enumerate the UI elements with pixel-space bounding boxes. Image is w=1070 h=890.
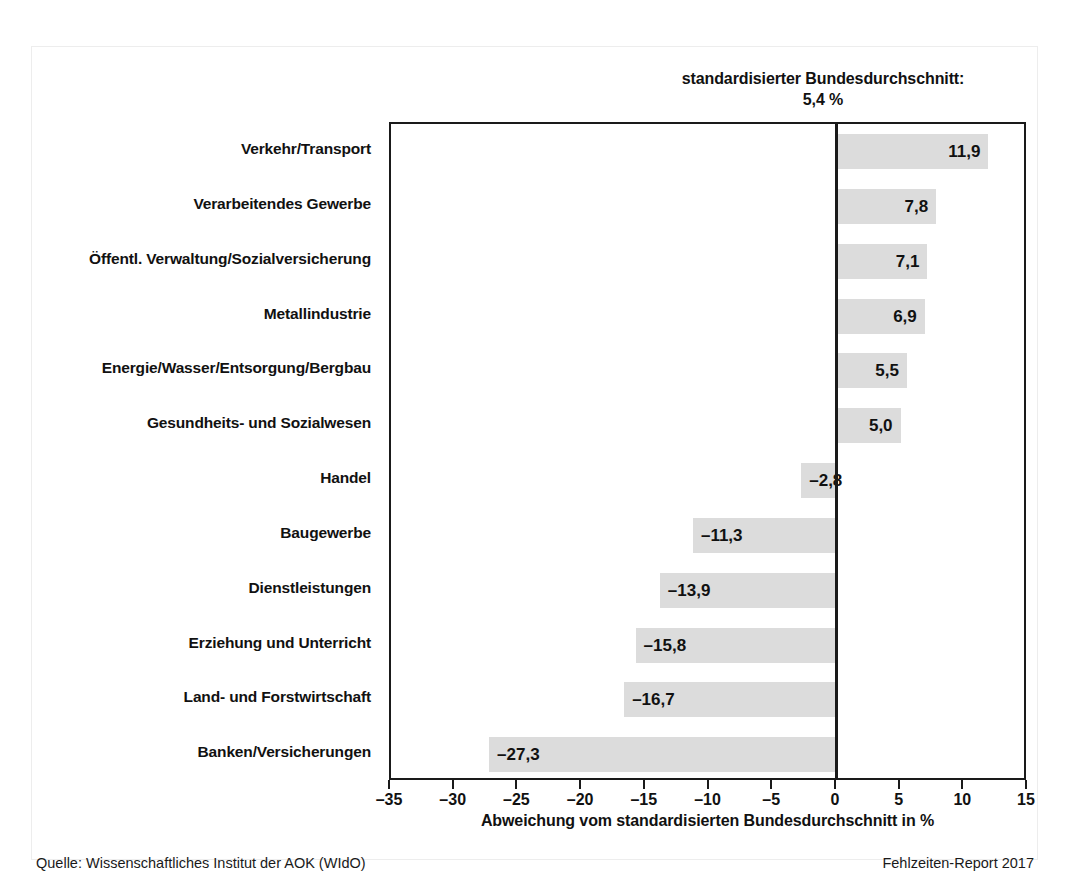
bar-value-label: –16,7 [624, 682, 837, 717]
x-axis-tick [1025, 780, 1027, 789]
category-label: Handel [0, 451, 380, 506]
category-label: Energie/Wasser/Entsorgung/Bergbau [0, 341, 380, 396]
chart-plot-area: 11,97,87,16,95,55,0–2,8–11,3–13,9–15,8–1… [389, 122, 1026, 780]
chart-bar-row: 5,5 [391, 343, 1024, 398]
category-label: Erziehung und Unterricht [0, 616, 380, 671]
chart-bar-row: –16,7 [391, 672, 1024, 727]
bar-value-label: 5,5 [837, 353, 907, 388]
x-axis-tick [770, 780, 772, 789]
chart-bar-row: 5,0 [391, 398, 1024, 453]
x-axis-tick-label: –25 [503, 791, 530, 809]
x-axis-tick-label: 0 [830, 791, 839, 809]
category-label: Gesundheits- und Sozialwesen [0, 396, 380, 451]
category-label: Land- und Forstwirtschaft [0, 670, 380, 725]
category-label: Öffentl. Verwaltung/Sozialversicherung [0, 232, 380, 287]
x-axis-tick [834, 780, 836, 789]
category-label: Verkehr/Transport [0, 122, 380, 177]
x-axis-tick [898, 780, 900, 789]
x-axis-tick-label: –10 [694, 791, 721, 809]
chart-bar-row: –13,9 [391, 563, 1024, 618]
x-axis-tick-label: 10 [953, 791, 971, 809]
chart-bar-row: 7,1 [391, 234, 1024, 289]
x-axis-tick-label: –5 [762, 791, 780, 809]
category-label: Metallindustrie [0, 287, 380, 342]
average-annotation-label: standardisierter Bundesdurchschnitt: [682, 70, 965, 87]
footer-report-text: Fehlzeiten-Report 2017 [882, 855, 1034, 871]
bar-value-label: 7,8 [837, 189, 936, 224]
chart-bar-row: 7,8 [391, 179, 1024, 234]
bar-value-label: –13,9 [660, 573, 837, 608]
x-axis-tick [579, 780, 581, 789]
average-annotation: standardisierter Bundesdurchschnitt: 5,4… [620, 68, 1026, 110]
x-axis-tick [707, 780, 709, 789]
x-axis-tick-label: –20 [567, 791, 594, 809]
bar-value-label: 6,9 [837, 299, 925, 334]
bar-value-label: 7,1 [837, 244, 927, 279]
bars-container: 11,97,87,16,95,55,0–2,8–11,3–13,9–15,8–1… [391, 124, 1024, 778]
average-annotation-value: 5,4 % [620, 89, 1026, 110]
x-axis-tick [388, 780, 390, 789]
chart-bar-row: 11,9 [391, 124, 1024, 179]
chart-bar-row: 6,9 [391, 289, 1024, 344]
category-label: Verarbeitendes Gewerbe [0, 177, 380, 232]
x-axis-tick-label: 5 [894, 791, 903, 809]
bar-value-label: 5,0 [837, 408, 901, 443]
x-axis-tick [643, 780, 645, 789]
bar-value-label: –11,3 [693, 518, 837, 553]
category-label: Dienstleistungen [0, 561, 380, 616]
bar-value-label: –27,3 [489, 737, 837, 772]
x-axis-tick [452, 780, 454, 789]
x-axis-title: Abweichung vom standardisierten Bundesdu… [389, 812, 1026, 830]
category-label: Banken/Versicherungen [0, 725, 380, 780]
zero-reference-line [835, 122, 838, 780]
chart-bar-row: –2,8 [391, 453, 1024, 508]
x-axis-tick [515, 780, 517, 789]
category-label: Baugewerbe [0, 506, 380, 561]
chart-bar-row: –27,3 [391, 727, 1024, 782]
x-axis-tick-label: 15 [1017, 791, 1035, 809]
bar-value-label: –15,8 [636, 628, 837, 663]
x-axis-tick-label: –35 [376, 791, 403, 809]
chart-bar-row: –11,3 [391, 508, 1024, 563]
x-axis-tick [961, 780, 963, 789]
x-axis-tick-label: –30 [439, 791, 466, 809]
category-axis-labels: Verkehr/TransportVerarbeitendes GewerbeÖ… [0, 122, 380, 780]
bar-value-label: 11,9 [837, 134, 989, 169]
footer-source-text: Quelle: Wissenschaftliches Institut der … [36, 855, 366, 871]
bar-value-label: –2,8 [801, 463, 837, 498]
x-axis-tick-label: –15 [630, 791, 657, 809]
chart-bar-row: –15,8 [391, 618, 1024, 673]
